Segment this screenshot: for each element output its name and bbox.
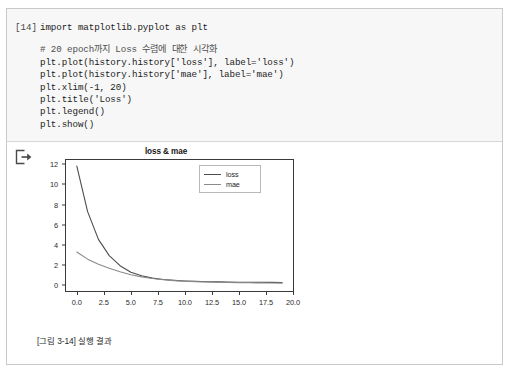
x-axis: 0.02.55.07.510.012.515.017.520.0 [65,292,294,314]
cell-execution-count: [14] [15,22,37,33]
x-axis-tick-label: 5.0 [116,298,146,307]
chart-legend: loss mae [199,165,261,193]
code-line: plt.show() [40,119,496,131]
x-axis-tick-mark [131,292,132,295]
code-line: plt.xlim(-1, 20) [40,82,496,94]
code-line: plt.plot(history.history['loss'], label=… [40,57,496,69]
output-cell: loss & mae 024681012 0.02.55.07.510.012.… [7,142,502,364]
y-axis-tick-label: 6 [36,220,58,229]
x-axis-tick-label: 20.0 [278,298,308,307]
figure-caption: [그림 3-14] 실행 결과 [37,334,112,346]
y-axis-tick-label: 8 [36,200,58,209]
legend-line-swatch-loss [204,174,221,175]
chart-series-line-mae [77,252,282,283]
x-axis-tick-mark [239,292,240,295]
x-axis-tick-mark [77,292,78,295]
x-axis-tick-label: 12.5 [197,298,227,307]
x-axis-tick-label: 10.0 [170,298,200,307]
chart-title: loss & mae [35,147,297,156]
legend-item-mae: mae [204,179,256,189]
screenshot-root: [14] import matplotlib.pyplot as plt# 20… [0,0,517,381]
y-axis-tick-label: 2 [36,261,58,270]
code-line: plt.title('Loss') [40,94,496,106]
x-axis-tick-mark [158,292,159,295]
x-axis-tick-label: 0.0 [62,298,92,307]
x-axis-tick-mark [104,292,105,295]
x-axis-tick-mark [266,292,267,295]
y-axis-tick-label: 12 [36,160,58,169]
code-line: plt.plot(history.history['mae'], label='… [40,69,496,81]
x-axis-tick-label: 17.5 [251,298,281,307]
legend-line-swatch-mae [204,184,221,185]
y-axis-tick-label: 4 [36,240,58,249]
x-axis-tick-label: 15.0 [224,298,254,307]
code-cell[interactable]: [14] import matplotlib.pyplot as plt# 20… [7,9,502,142]
x-axis-tick-mark [293,292,294,295]
y-axis-tick-label: 0 [36,281,58,290]
output-export-icon [15,149,33,165]
legend-label-loss: loss [226,170,238,179]
x-axis-tick-label: 7.5 [143,298,173,307]
legend-label-mae: mae [226,180,240,189]
code-comment-line: # 20 epoch까지 Loss 수렴에 대한 시각화 [40,44,496,56]
matplotlib-figure: loss & mae 024681012 0.02.55.07.510.012.… [35,146,335,321]
y-axis: 024681012 [35,159,65,292]
code-editor[interactable]: import matplotlib.pyplot as plt# 20 epoc… [40,22,496,131]
x-axis-tick-label: 2.5 [89,298,119,307]
code-line: import matplotlib.pyplot as plt [40,22,496,34]
notebook-cell-container: [14] import matplotlib.pyplot as plt# 20… [6,8,503,365]
y-axis-tick-label: 10 [36,180,58,189]
legend-item-loss: loss [204,169,256,179]
x-axis-tick-mark [185,292,186,295]
x-axis-tick-mark [212,292,213,295]
code-line-blank [40,34,496,44]
code-line: plt.legend() [40,106,496,118]
